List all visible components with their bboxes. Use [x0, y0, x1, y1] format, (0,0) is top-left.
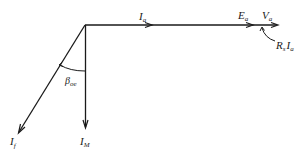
- beta-angle-arc: [60, 65, 85, 71]
- label-ea: Ea: [237, 9, 249, 23]
- phasor-diagram: Ia Ea Va RsIa IM If βoe: [0, 0, 296, 155]
- if-phasor-line: [19, 25, 85, 132]
- label-im: IM: [79, 135, 91, 149]
- label-va: Va: [262, 9, 273, 23]
- label-beta-oe: βoe: [64, 75, 77, 88]
- label-ia: Ia: [138, 10, 147, 24]
- label-rsia: RsIa: [275, 39, 294, 53]
- label-if: If: [9, 135, 17, 150]
